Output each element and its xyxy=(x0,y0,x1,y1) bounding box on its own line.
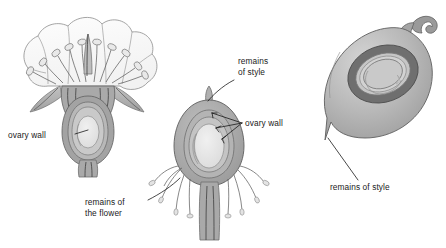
label-remains-of-the-flower: remains of the flower xyxy=(85,178,180,218)
label-remains-of-style-middle-line-2: of style xyxy=(238,67,265,77)
label-remains-of-style-right: remains of style xyxy=(328,138,390,192)
label-remains-of-style-right-text: remains of style xyxy=(330,182,390,192)
pedicel xyxy=(78,160,97,177)
label-remains-of-style-middle: remains of style xyxy=(208,56,268,101)
label-remains-of-style-middle-line-1: remains xyxy=(238,56,268,66)
young-fruit-body xyxy=(174,100,244,186)
panel-mature-fruit: remains of style xyxy=(324,16,437,192)
diagram-canvas: ovary wall xyxy=(0,0,446,248)
ovary-flower xyxy=(62,96,114,166)
label-ovary-wall-young-text: ovary wall xyxy=(245,118,283,128)
label-remains-of-the-flower-line-2: the flower xyxy=(85,208,122,218)
label-ovary-wall-flower-text: ovary wall xyxy=(8,130,46,140)
label-remains-of-the-flower-line-1: remains of xyxy=(85,197,125,207)
botanical-diagram-figure: ovary wall xyxy=(0,0,446,248)
panel-open-flower: ovary wall xyxy=(8,17,157,177)
young-fruit-stalk xyxy=(199,182,219,240)
leader-remains-of-style-right xyxy=(328,138,358,180)
